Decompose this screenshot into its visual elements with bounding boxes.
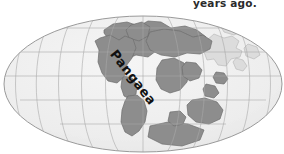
pangaea-figure: years ago. xyxy=(0,0,284,154)
world-map-graphic xyxy=(0,0,284,154)
